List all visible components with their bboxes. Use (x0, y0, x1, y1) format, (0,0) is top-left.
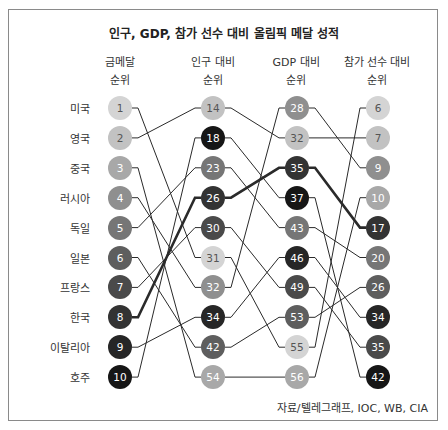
rank-circle: 37 (285, 186, 309, 210)
connector-line (225, 138, 285, 198)
rank-circle: 35 (285, 156, 309, 180)
rank-circle: 10 (108, 365, 132, 389)
country-label: 호주 (0, 369, 90, 385)
rank-circle: 56 (285, 365, 309, 389)
rank-circle: 35 (366, 335, 390, 359)
connector-line (132, 317, 201, 347)
rank-circle: 18 (201, 126, 225, 150)
rank-circle: 7 (366, 126, 390, 150)
country-label: 영국 (0, 130, 90, 146)
connector-line (225, 168, 285, 228)
rank-circle: 4 (108, 186, 132, 210)
connector-line (309, 108, 366, 347)
rank-circle: 20 (366, 246, 390, 270)
connector-line (309, 287, 366, 347)
rank-circle: 9 (366, 156, 390, 180)
country-label: 중국 (0, 160, 90, 176)
rank-circle: 3 (108, 156, 132, 180)
rank-circle: 43 (285, 216, 309, 240)
country-label: 미국 (0, 100, 90, 116)
connector-line (225, 317, 285, 347)
rank-circle: 55 (285, 335, 309, 359)
rank-circle: 6 (108, 246, 132, 270)
rank-circle: 17 (366, 216, 390, 240)
rank-circle: 5 (108, 216, 132, 240)
rank-circle: 14 (201, 96, 225, 120)
source-note: 자료/텔레그래프, IOC, WB, CIA (277, 399, 428, 415)
rank-circle: 1 (108, 96, 132, 120)
connector-line (309, 287, 366, 317)
rank-circle: 30 (201, 216, 225, 240)
rank-circle: 28 (285, 96, 309, 120)
rank-circle: 46 (285, 246, 309, 270)
rank-circle: 54 (201, 365, 225, 389)
connector-line (132, 108, 201, 138)
connector-line (132, 168, 201, 228)
connector-line (132, 168, 201, 377)
rank-circle: 10 (366, 186, 390, 210)
connector-line (225, 258, 285, 348)
rank-circle: 42 (366, 365, 390, 389)
connector-line (225, 228, 285, 288)
connector-line (225, 108, 285, 138)
country-label: 러시아 (0, 190, 90, 206)
rank-circle: 42 (201, 335, 225, 359)
rank-circle: 9 (108, 335, 132, 359)
country-label: 이탈리아 (0, 339, 90, 355)
connector-line (309, 228, 366, 258)
rank-circle: 23 (201, 156, 225, 180)
country-label: 독일 (0, 220, 90, 236)
country-label: 일본 (0, 250, 90, 266)
rank-circle: 6 (366, 96, 390, 120)
country-label: 프랑스 (0, 279, 90, 295)
rank-circle: 32 (285, 126, 309, 150)
connector-line (309, 168, 366, 228)
connector-line (225, 258, 285, 318)
rank-circle: 2 (108, 126, 132, 150)
rank-circle: 26 (201, 186, 225, 210)
rank-circle: 31 (201, 246, 225, 270)
country-label: 한국 (0, 309, 90, 325)
